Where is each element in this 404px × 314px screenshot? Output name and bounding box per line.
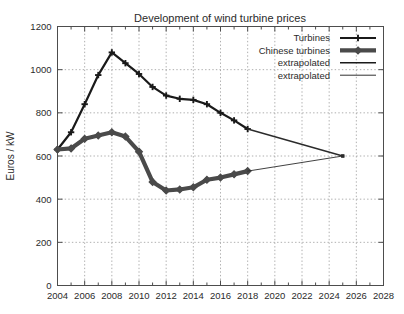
y-tick-label: 200 (36, 237, 52, 248)
x-tick-label: 2004 (47, 290, 68, 301)
legend-label: Turbines (293, 32, 330, 43)
x-tick-label: 2014 (183, 290, 204, 301)
x-tick-label: 2028 (373, 290, 394, 301)
x-tick-label: 2024 (319, 290, 340, 301)
y-tick-label: 1200 (30, 21, 51, 32)
chart-title: Development of wind turbine prices (134, 12, 306, 24)
y-tick-label: 1000 (30, 64, 51, 75)
legend-label: extrapolated (278, 70, 330, 81)
y-tick-label: 0 (46, 280, 51, 291)
x-tick-label: 2012 (156, 290, 177, 301)
endpoint-marker-icon (341, 154, 344, 157)
chart-container: Development of wind turbine prices 20042… (0, 0, 404, 314)
x-tick-label: 2018 (237, 290, 258, 301)
x-tick-label: 2026 (346, 290, 367, 301)
legend-label: Chinese turbines (259, 45, 331, 56)
x-tick-label: 2022 (291, 290, 312, 301)
y-axis-label: Euros / kW (5, 131, 16, 180)
y-tick-label: 600 (36, 151, 52, 162)
x-tick-label: 2016 (210, 290, 231, 301)
x-tick-label: 2006 (74, 290, 95, 301)
y-tick-label: 400 (36, 194, 52, 205)
legend-label: extrapolated (278, 57, 330, 68)
y-tick-label: 800 (36, 107, 52, 118)
wind-turbine-price-chart: Development of wind turbine prices 20042… (0, 0, 404, 314)
x-tick-label: 2008 (101, 290, 122, 301)
x-tick-label: 2010 (128, 290, 149, 301)
x-tick-label: 2020 (264, 290, 285, 301)
